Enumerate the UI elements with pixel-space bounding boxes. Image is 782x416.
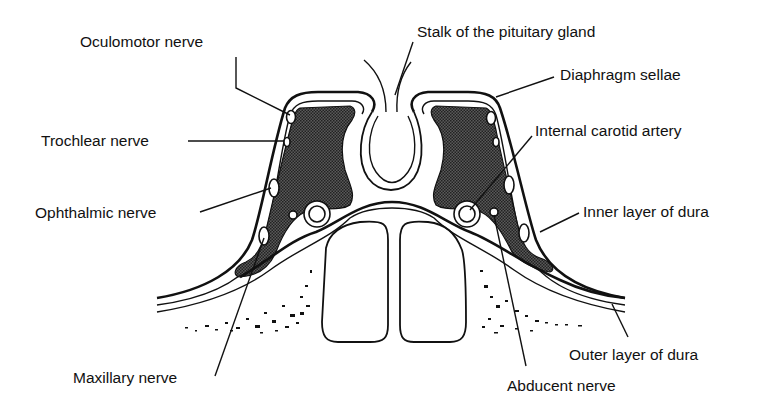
sphenoid-sinus (322, 222, 466, 342)
leader-stalk (395, 42, 413, 95)
label-trochlear-nerve: Trochlear nerve (41, 132, 149, 149)
label-diaphragm-sellae: Diaphragm sellae (560, 66, 681, 83)
pituitary-region (157, 60, 625, 312)
label-abducent-nerve: Abducent nerve (507, 377, 616, 394)
sphenoid-bone-texture (185, 270, 582, 334)
cavernous-sinus-diagram: Oculomotor nerve Trochlear nerve Ophthal… (0, 0, 782, 416)
leader-diaphragm (496, 77, 554, 97)
labels: Oculomotor nerve Trochlear nerve Ophthal… (35, 23, 709, 394)
label-ophthalmic-nerve: Ophthalmic nerve (35, 204, 156, 221)
leader-inner-dura (540, 213, 579, 232)
label-outer-layer-dura: Outer layer of dura (569, 346, 699, 363)
label-inner-layer-dura: Inner layer of dura (583, 203, 709, 220)
maxillary-nerve-left (259, 227, 269, 245)
label-pituitary-stalk: Stalk of the pituitary gland (417, 23, 595, 40)
abducent-nerve-left (289, 211, 297, 219)
abducent-nerve-right (490, 208, 498, 216)
leader-outer-dura (612, 304, 628, 337)
label-maxillary-nerve: Maxillary nerve (73, 369, 177, 386)
leader-oculomotor (236, 57, 290, 115)
trochlear-nerve-left (284, 138, 290, 147)
label-oculomotor-nerve: Oculomotor nerve (80, 33, 203, 50)
label-internal-carotid-artery: Internal carotid artery (535, 122, 682, 139)
oculomotor-nerve-left (287, 111, 296, 124)
